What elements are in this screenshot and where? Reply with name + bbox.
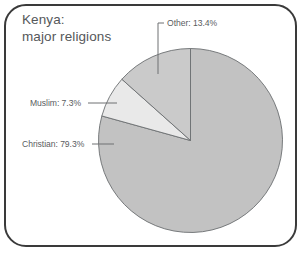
chart-figure: Kenya: major religions Other: 13.4% Musl…: [0, 0, 305, 255]
callout-label-other: Other: 13.4%: [167, 18, 217, 28]
callout-label-muslim: Muslim: 7.3%: [30, 98, 81, 108]
chart-title-line2: major religions: [22, 29, 111, 44]
callout-label-christian: Christian: 79.3%: [22, 139, 85, 149]
chart-title-line1: Kenya:: [22, 12, 65, 27]
pie-chart: Kenya: major religions Other: 13.4% Musl…: [0, 0, 305, 255]
